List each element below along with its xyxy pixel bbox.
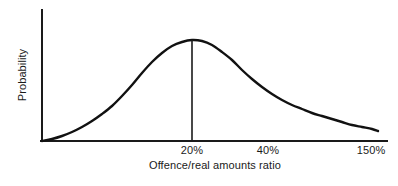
y-axis-title: Probability	[16, 49, 28, 101]
distribution-curve	[42, 40, 378, 141]
xtick-label-20: 20%	[181, 144, 203, 156]
probability-distribution-chart: 20% 40% 150% Offence/real amounts ratio …	[0, 0, 398, 186]
xtick-label-150: 150%	[357, 144, 386, 156]
x-axis-title: Offence/real amounts ratio	[149, 159, 281, 171]
xtick-label-40: 40%	[257, 144, 279, 156]
